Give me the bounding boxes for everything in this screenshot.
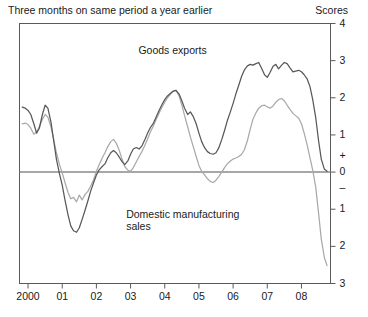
y-axis-tick-label: 4 [340, 18, 346, 29]
y-axis-tick-label: 1 [340, 203, 346, 214]
x-axis-tick-label: 08 [281, 291, 321, 302]
y-axis-tick-label: 3 [340, 278, 346, 289]
y-axis-tick-label: 1 [340, 129, 346, 140]
y-axis-tick-label: 0 [340, 166, 346, 177]
y-axis-tick-label: 2 [340, 92, 346, 103]
y-axis-tick-label: + [340, 150, 346, 161]
series-line-goods-exports [22, 63, 327, 233]
axis-ticks [28, 24, 335, 289]
annotation-domestic-manufacturing-sales: Domestic manufacturing sales [126, 208, 239, 233]
y-axis-tick-label: 3 [340, 55, 346, 66]
y-axis-tick-label: 2 [340, 240, 346, 251]
y-axis-tick-label: – [340, 182, 346, 193]
annotation-goods-exports: Goods exports [138, 44, 206, 57]
series-line-domestic-manufacturing-sales [22, 90, 327, 265]
chart-figure: Three months on same period a year earli… [0, 0, 368, 317]
